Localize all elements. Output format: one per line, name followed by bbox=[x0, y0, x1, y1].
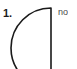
side-note-text: no bbox=[58, 6, 68, 18]
worksheet-fragment-page: 1. no bbox=[0, 0, 77, 69]
half-disc-outline-path bbox=[11, 8, 51, 69]
